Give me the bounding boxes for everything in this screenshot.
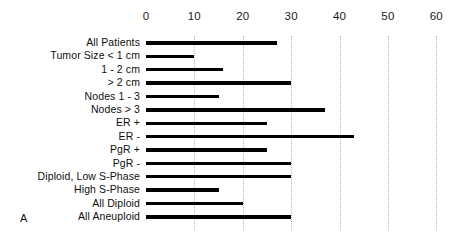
chart-row: 1 - 2 cm [0, 63, 464, 76]
row-label-diploid-low-s-phase: Diploid, Low S-Phase [38, 170, 140, 183]
row-label-er: ER - [119, 130, 140, 143]
x-tick-label-0: 0 [143, 10, 150, 22]
x-tick-label-50: 50 [381, 10, 394, 22]
chart-row: Nodes 1 - 3 [0, 90, 464, 103]
bar-tumor-size-1-cm [146, 55, 194, 58]
bar-nodes-3 [146, 108, 325, 111]
x-tick-label-60: 60 [430, 10, 443, 22]
bar-all-diploid [146, 202, 243, 205]
row-label-nodes-3: Nodes > 3 [91, 103, 140, 116]
x-tick-label-40: 40 [333, 10, 346, 22]
row-label-nodes-1-3: Nodes 1 - 3 [85, 90, 140, 103]
bar-er [146, 122, 267, 125]
bar-track [146, 76, 446, 89]
chart-figure: 0102030405060 All PatientsTumor Size < 1… [0, 0, 464, 236]
chart-row: ER - [0, 130, 464, 143]
bar-track [146, 183, 446, 196]
bar-nodes-1-3 [146, 95, 219, 98]
bar-track [146, 143, 446, 156]
x-axis-tick-labels: 0102030405060 [146, 10, 446, 30]
chart-row: High S-Phase [0, 183, 464, 196]
row-label-er: ER + [116, 116, 140, 129]
bar-track [146, 103, 446, 116]
bar-high-s-phase [146, 188, 219, 191]
bar-2-cm [146, 81, 291, 84]
bar-diploid-low-s-phase [146, 175, 291, 178]
bar-all-patients [146, 41, 277, 44]
chart-row: Diploid, Low S-Phase [0, 170, 464, 183]
chart-row: All Aneuploid [0, 210, 464, 223]
bar-track [146, 210, 446, 223]
chart-row: Nodes > 3 [0, 103, 464, 116]
row-label-all-diploid: All Diploid [92, 197, 140, 210]
bar-track [146, 63, 446, 76]
bar-track [146, 36, 446, 49]
chart-row: PgR - [0, 157, 464, 170]
bar-track [146, 116, 446, 129]
bar-rows: All PatientsTumor Size < 1 cm1 - 2 cm> 2… [0, 36, 464, 223]
chart-row: > 2 cm [0, 76, 464, 89]
chart-row: All Patients [0, 36, 464, 49]
bar-track [146, 90, 446, 103]
bar-all-aneuploid [146, 215, 291, 218]
bar-track [146, 130, 446, 143]
bar-track [146, 157, 446, 170]
x-tick-label-30: 30 [285, 10, 298, 22]
bar-track [146, 49, 446, 62]
row-label-pgr: PgR - [113, 157, 140, 170]
row-label-2-cm: > 2 cm [108, 76, 140, 89]
chart-row: Tumor Size < 1 cm [0, 49, 464, 62]
row-label-high-s-phase: High S-Phase [74, 183, 140, 196]
x-tick-label-10: 10 [188, 10, 201, 22]
bar-track [146, 170, 446, 183]
chart-row: ER + [0, 116, 464, 129]
row-label-all-patients: All Patients [86, 36, 140, 49]
row-label-1-2-cm: 1 - 2 cm [101, 63, 140, 76]
bar-er [146, 135, 354, 138]
bar-pgr [146, 162, 291, 165]
row-label-tumor-size-1-cm: Tumor Size < 1 cm [50, 49, 140, 62]
row-label-all-aneuploid: All Aneuploid [78, 210, 140, 223]
panel-letter: A [20, 212, 27, 224]
row-label-pgr: PgR + [110, 143, 140, 156]
chart-row: All Diploid [0, 197, 464, 210]
bar-track [146, 197, 446, 210]
chart-row: PgR + [0, 143, 464, 156]
bar-1-2-cm [146, 68, 223, 71]
x-tick-label-20: 20 [236, 10, 249, 22]
bar-pgr [146, 148, 267, 151]
